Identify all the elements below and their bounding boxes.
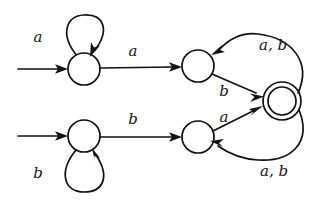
label-top-forward: a — [129, 42, 138, 60]
start-arrow-top — [18, 64, 68, 74]
transition-bottom-forward — [100, 132, 182, 142]
state-bottom-middle — [182, 121, 214, 153]
automaton-canvas: a b a b b a a, b a, b — [0, 0, 318, 204]
state-accepting-inner — [268, 87, 296, 115]
self-loop-bottom — [65, 148, 103, 192]
label-bottom-forward: b — [128, 110, 138, 128]
label-accept-back-top: a, b — [259, 36, 287, 54]
self-loop-top — [67, 15, 104, 57]
transition-top-forward-line — [100, 67, 174, 68]
label-top-to-accept: b — [219, 82, 229, 100]
label-bottom-to-accept: a — [220, 108, 229, 126]
label-accept-back-bottom: a, b — [260, 162, 288, 180]
automaton-figure: a b a b b a a, b a, b — [0, 0, 318, 204]
self-loop-top-curve — [67, 15, 104, 55]
state-top-start — [68, 53, 100, 85]
transition-top-forward — [100, 62, 182, 72]
transition-top-to-accept-head — [250, 94, 264, 103]
label-start-bottom: b — [33, 164, 43, 182]
label-start-top: a — [34, 28, 43, 46]
state-top-middle — [182, 50, 214, 82]
state-bottom-start — [68, 120, 100, 152]
start-arrow-bottom — [18, 131, 68, 141]
